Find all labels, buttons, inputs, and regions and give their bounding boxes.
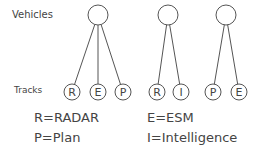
link-line [214, 25, 224, 84]
track-letter: R [153, 86, 161, 99]
link-line [170, 25, 180, 84]
legend-plan: P=Plan [34, 130, 80, 145]
vehicle-node [158, 5, 178, 25]
vehicle-node [216, 5, 236, 25]
track-letter: R [68, 86, 76, 99]
legend-esm: E=ESM [147, 110, 194, 125]
track-letter: E [236, 86, 243, 99]
track-letter: E [95, 86, 102, 99]
legend-radar: R=RADAR [34, 110, 99, 125]
vehicle-node [88, 5, 108, 25]
link-line [228, 25, 238, 84]
tracks-label: Tracks [14, 85, 42, 95]
track-letter: P [210, 86, 217, 99]
link-line [158, 25, 166, 84]
track-letter: I [179, 86, 182, 99]
link-line [75, 24, 95, 84]
track-letter: P [120, 86, 127, 99]
vehicles-label: Vehicles [12, 9, 53, 20]
legend-intelligence: I=Intelligence [147, 130, 237, 145]
link-line [101, 25, 120, 85]
